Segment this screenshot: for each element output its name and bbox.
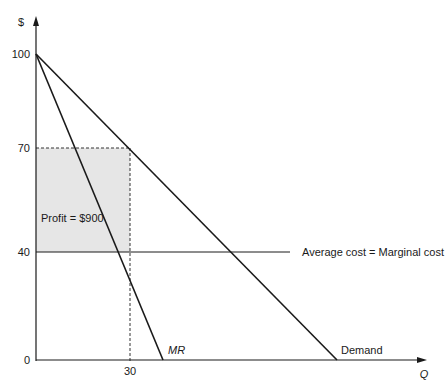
x-axis-label: Q xyxy=(420,368,429,380)
y-tick-0: 0 xyxy=(24,354,30,366)
x-tick-30: 30 xyxy=(124,365,136,377)
y-tick-100: 100 xyxy=(12,48,30,60)
profit-label: Profit = $900 xyxy=(41,212,104,224)
monopoly-profit-chart: $ Q 100 70 40 0 30 Profit = $900 MR Dema… xyxy=(0,0,445,388)
x-axis-arrow-icon xyxy=(417,357,427,363)
profit-region xyxy=(36,148,130,252)
y-tick-70: 70 xyxy=(18,142,30,154)
demand-label: Demand xyxy=(341,344,383,356)
y-axis-arrow-icon xyxy=(33,16,39,26)
y-tick-40: 40 xyxy=(18,246,30,258)
y-axis-label: $ xyxy=(18,16,24,28)
mr-label: MR xyxy=(168,344,185,356)
cost-label: Average cost = Marginal cost xyxy=(302,246,444,258)
